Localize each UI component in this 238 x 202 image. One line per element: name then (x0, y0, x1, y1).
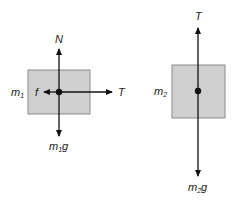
center-of-mass-dot-2 (195, 88, 201, 94)
label-m1g: m1g (49, 140, 69, 153)
label-T-body1: T (118, 86, 126, 98)
body-2-diagram: T m2 m2g (154, 10, 225, 194)
label-m1: m1 (11, 86, 24, 99)
label-m2g: m2g (188, 181, 208, 194)
label-T-body2: T (195, 10, 203, 22)
center-of-mass-dot-1 (56, 89, 62, 95)
label-m2: m2 (154, 85, 167, 98)
body-1-diagram: N T f m1 m1g (11, 33, 126, 153)
free-body-diagram-canvas: N T f m1 m1g T m2 m2g (0, 0, 238, 202)
label-N: N (55, 33, 63, 45)
